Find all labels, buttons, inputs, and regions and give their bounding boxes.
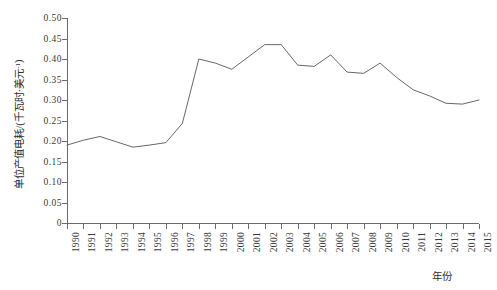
x-axis-tick-mark bbox=[199, 224, 200, 229]
y-axis-tick-label: 0.40 bbox=[22, 54, 62, 64]
x-axis-tick-label: 1997 bbox=[186, 232, 196, 252]
x-axis-tick-mark bbox=[166, 224, 167, 229]
x-axis-tick-label: 1999 bbox=[219, 232, 229, 252]
x-axis-tick-mark bbox=[380, 224, 381, 229]
x-axis-tick-label: 2004 bbox=[302, 232, 312, 252]
x-axis-tick-label: 1996 bbox=[170, 232, 180, 252]
x-axis-tick-label: 2007 bbox=[351, 232, 361, 252]
x-axis-tick-label: 2013 bbox=[450, 232, 460, 252]
x-axis-tick-label: 1995 bbox=[153, 232, 163, 252]
y-axis-tick-label: 0.10 bbox=[22, 177, 62, 187]
y-axis-tick-label: 0.15 bbox=[22, 157, 62, 167]
x-axis-line bbox=[67, 223, 479, 224]
y-axis-tick-label: 0.05 bbox=[22, 198, 62, 208]
y-axis-tick-label: 0.45 bbox=[22, 34, 62, 44]
x-axis-tick-mark bbox=[133, 224, 134, 229]
y-axis-tick-label: 0 bbox=[22, 218, 62, 228]
x-axis-tick-label: 1994 bbox=[137, 232, 147, 252]
x-axis-tick-mark bbox=[347, 224, 348, 229]
x-axis-tick-label: 2003 bbox=[285, 232, 295, 252]
x-axis-tick-mark bbox=[281, 224, 282, 229]
x-axis-tick-mark bbox=[116, 224, 117, 229]
x-axis-tick-mark bbox=[413, 224, 414, 229]
x-axis-tick-label: 1998 bbox=[203, 232, 213, 252]
x-axis-tick-label: 2002 bbox=[269, 232, 279, 252]
x-axis-tick-mark bbox=[83, 224, 84, 229]
y-axis-tick-label: 0.50 bbox=[22, 13, 62, 23]
x-axis-tick-mark bbox=[215, 224, 216, 229]
line-series-unit-output-electricity bbox=[67, 45, 479, 147]
x-axis-tick-label: 2008 bbox=[368, 232, 378, 252]
x-axis-tick-label: 2000 bbox=[236, 232, 246, 252]
x-axis-tick-label: 2011 bbox=[417, 232, 427, 252]
x-axis-tick-label: 2001 bbox=[252, 232, 262, 252]
x-axis-tick-mark bbox=[331, 224, 332, 229]
chart-figure: 单位产值电耗/(千瓦时·美元-1) 0.500.450.400.350.300.… bbox=[0, 0, 497, 290]
y-axis-tick-label: 0.35 bbox=[22, 75, 62, 85]
x-axis-tick-mark bbox=[430, 224, 431, 229]
x-axis-tick-mark bbox=[67, 224, 68, 229]
x-axis-tick-mark bbox=[314, 224, 315, 229]
x-axis-tick-mark bbox=[397, 224, 398, 229]
x-axis-tick-label: 1990 bbox=[71, 232, 81, 252]
y-axis-tick-label: 0.30 bbox=[22, 95, 62, 105]
x-axis-tick-label: 1992 bbox=[104, 232, 114, 252]
x-axis-tick-label: 2010 bbox=[401, 232, 411, 252]
x-axis-tick-label: 1991 bbox=[87, 232, 97, 252]
x-axis-tick-mark bbox=[265, 224, 266, 229]
y-axis-tick-label: 0.20 bbox=[22, 136, 62, 146]
x-axis-tick-mark bbox=[463, 224, 464, 229]
x-axis-tick-label: 2014 bbox=[467, 232, 477, 252]
y-axis-tick-label: 0.25 bbox=[22, 116, 62, 126]
x-axis-tick-mark bbox=[248, 224, 249, 229]
plot-area bbox=[67, 18, 479, 223]
data-series-line bbox=[67, 18, 479, 223]
x-axis-tick-label: 2012 bbox=[434, 232, 444, 252]
x-axis-tick-label: 2015 bbox=[483, 232, 493, 252]
x-axis-tick-mark bbox=[100, 224, 101, 229]
x-axis-tick-mark bbox=[298, 224, 299, 229]
x-axis-tick-mark bbox=[182, 224, 183, 229]
x-axis-tick-mark bbox=[479, 224, 480, 229]
x-axis-tick-mark bbox=[149, 224, 150, 229]
x-axis-tick-label: 2005 bbox=[318, 232, 328, 252]
x-axis-tick-mark bbox=[232, 224, 233, 229]
y-axis-tick-labels: 0.500.450.400.350.300.250.200.150.100.05… bbox=[22, 0, 62, 290]
x-axis-tick-mark bbox=[364, 224, 365, 229]
x-axis-tick-label: 2009 bbox=[384, 232, 394, 252]
x-axis-tick-label: 1993 bbox=[120, 232, 130, 252]
x-axis-tick-mark bbox=[446, 224, 447, 229]
x-axis-title: 年份 bbox=[432, 268, 452, 283]
x-axis-tick-label: 2006 bbox=[335, 232, 345, 252]
